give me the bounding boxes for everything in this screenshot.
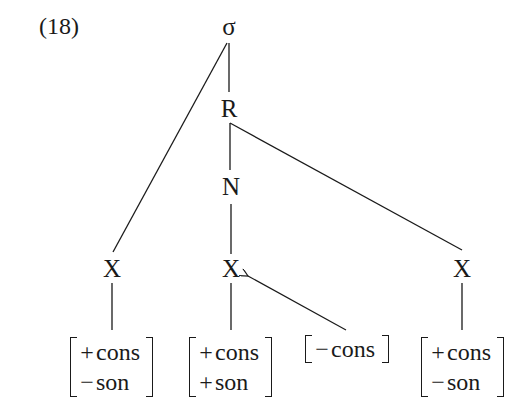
feature-row: +cons [429, 337, 496, 367]
feature-sign: − [313, 335, 331, 363]
right-bracket [382, 335, 389, 363]
node-x-middle: X [216, 256, 246, 281]
node-sigma: σ [214, 14, 244, 39]
node-rhyme: R [214, 96, 244, 121]
feature-sign: − [78, 367, 96, 397]
feature-sign: + [197, 367, 215, 397]
left-bracket [70, 337, 77, 397]
feature-matrix-left: +cons −son [70, 337, 153, 397]
node-nucleus: N [216, 174, 246, 199]
edge-rhyme-x-right [230, 123, 462, 250]
node-x-left: X [97, 256, 127, 281]
feature-matrix-middle: +cons +son [189, 337, 272, 397]
right-bracket [146, 337, 153, 397]
feature-name: cons [331, 336, 375, 362]
feature-sign: − [429, 367, 447, 397]
feature-row: +son [197, 367, 264, 397]
right-bracket [497, 337, 504, 397]
left-bracket [189, 337, 196, 397]
feature-row: −son [429, 367, 496, 397]
feature-matrix-floating: −cons [305, 335, 389, 363]
feature-matrix-right: +cons −son [421, 337, 504, 397]
right-bracket [265, 337, 272, 397]
feature-name: cons [96, 339, 140, 365]
association-arrow [248, 276, 346, 330]
feature-name: son [96, 369, 129, 395]
feature-name: cons [215, 339, 259, 365]
feature-name: son [447, 369, 480, 395]
edge-sigma-x-left [113, 43, 227, 252]
feature-sign: + [78, 337, 96, 367]
feature-row: −son [78, 367, 145, 397]
feature-sign: + [429, 337, 447, 367]
feature-row: +cons [197, 337, 264, 367]
feature-sign: + [197, 337, 215, 367]
feature-row: −cons [313, 335, 381, 363]
feature-name: son [215, 369, 248, 395]
feature-row: +cons [78, 337, 145, 367]
node-x-right: X [447, 256, 477, 281]
feature-name: cons [447, 339, 491, 365]
left-bracket [305, 335, 312, 363]
left-bracket [421, 337, 428, 397]
